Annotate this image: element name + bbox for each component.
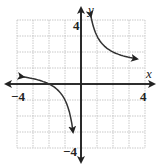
x-min-label: −4 [11,89,25,104]
y-max-label: 4 [73,18,80,33]
graph: y x 4 −4 −4 4 [0,0,162,166]
axes [6,8,154,162]
curve-lower-branch [23,77,73,132]
curve-upper-branch [91,16,137,59]
x-axis-label: x [145,66,152,81]
x-max-label: 4 [140,89,147,104]
y-min-label: −4 [63,144,77,159]
y-axis-label: y [86,2,94,17]
